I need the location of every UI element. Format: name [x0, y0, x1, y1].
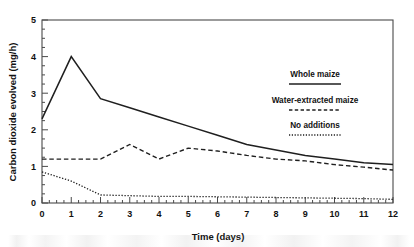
chart-figure: 012345 0123456789101112 Time (days) Carb… — [0, 0, 414, 247]
legend-label-whole-maize: Whole maize — [290, 70, 340, 79]
svg-text:1: 1 — [69, 209, 74, 219]
svg-text:3: 3 — [31, 89, 36, 99]
svg-text:5: 5 — [186, 209, 191, 219]
svg-text:4: 4 — [156, 209, 161, 219]
series-no-additions — [42, 172, 393, 199]
svg-text:0: 0 — [31, 198, 36, 208]
svg-text:6: 6 — [215, 209, 220, 219]
svg-text:9: 9 — [303, 209, 308, 219]
svg-text:4: 4 — [31, 52, 36, 62]
svg-text:3: 3 — [127, 209, 132, 219]
svg-text:1: 1 — [31, 162, 36, 172]
legend-label-no-additions: No additions — [290, 121, 340, 130]
line-chart: 012345 0123456789101112 Time (days) Carb… — [0, 0, 414, 247]
plot-frame — [42, 20, 393, 203]
legend-label-water-extracted-maize: Water-extracted maize — [272, 96, 359, 105]
x-axis-ticks — [42, 197, 393, 203]
svg-text:10: 10 — [329, 209, 339, 219]
y-axis-title: Carbon dioxide evolved (mg/h) — [7, 43, 18, 182]
page-footer-text — [0, 235, 414, 247]
svg-text:12: 12 — [388, 209, 398, 219]
legend: Whole maize Water-extracted maize No add… — [272, 70, 359, 135]
svg-text:11: 11 — [359, 209, 369, 219]
svg-text:7: 7 — [244, 209, 249, 219]
y-axis-tick-labels: 012345 — [31, 15, 36, 208]
series-water-extracted-maize — [42, 144, 393, 170]
svg-text:5: 5 — [31, 15, 36, 25]
svg-text:8: 8 — [273, 209, 278, 219]
svg-text:0: 0 — [39, 209, 44, 219]
x-axis-tick-labels: 0123456789101112 — [39, 209, 398, 219]
svg-text:2: 2 — [98, 209, 103, 219]
series-whole-maize — [42, 57, 393, 165]
svg-text:2: 2 — [31, 125, 36, 135]
